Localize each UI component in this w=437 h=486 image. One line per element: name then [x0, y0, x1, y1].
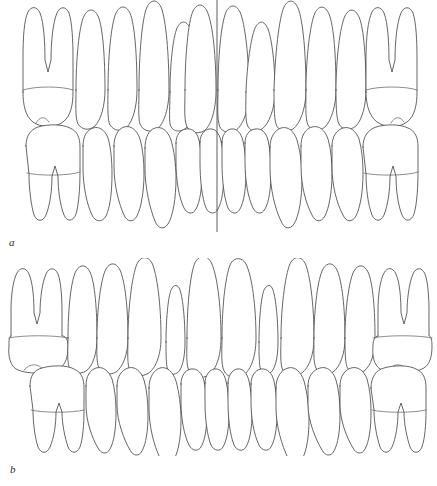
- tooth-lower-right-central-incisor: [200, 129, 224, 213]
- tooth-lower-right-second-premolar: [83, 127, 112, 220]
- tooth-lower-left-first-premolar: [301, 127, 332, 221]
- panel-b-label: b: [10, 464, 16, 475]
- tooth-upper-left-canine: [274, 1, 306, 131]
- tooth-upper-right-peg-lateral-incisor-b: [166, 286, 185, 375]
- tooth-lower-right-first-molar: [26, 125, 80, 220]
- dental-figure: a: [0, 0, 437, 486]
- tooth-upper-right-canine: [139, 1, 169, 131]
- tooth-lower-left-second-premolar: [332, 128, 363, 221]
- tooth-upper-left-central-incisor: [218, 6, 249, 132]
- tooth-upper-right-canine-b: [128, 258, 161, 376]
- panel-a: [0, 0, 437, 250]
- tooth-upper-right-first-premolar-b: [97, 264, 128, 374]
- tooth-lower-right-first-premolar: [114, 127, 144, 221]
- tooth-lower-left-canine: [270, 128, 302, 228]
- tooth-upper-right-first-premolar: [108, 7, 137, 130]
- tooth-lower-left-second-premolar-b: [340, 368, 371, 453]
- tooth-lower-right-first-premolar-b: [117, 368, 148, 455]
- tooth-upper-left-first-molar: [366, 8, 417, 127]
- tooth-upper-left-first-premolar-b: [314, 264, 345, 374]
- tooth-upper-left-canine-b: [281, 258, 314, 376]
- panel-a-label: a: [9, 237, 15, 248]
- tooth-lower-right-second-premolar-b: [86, 368, 116, 453]
- tooth-upper-right-first-molar-b: [9, 269, 68, 373]
- panel-a-upper-arch: [23, 1, 417, 133]
- tooth-lower-left-canine-b: [276, 368, 309, 456]
- tooth-upper-right-second-premolar: [76, 10, 105, 129]
- tooth-lower-right-first-molar-b: [30, 366, 84, 452]
- tooth-lower-left-lateral-incisor: [245, 129, 271, 213]
- tooth-lower-left-first-molar: [363, 125, 418, 220]
- tooth-upper-left-central-incisor-b: [222, 259, 256, 378]
- tooth-upper-left-lateral-incisor: [246, 22, 275, 131]
- tooth-upper-right-second-premolar-b: [68, 266, 97, 373]
- tooth-lower-right-lateral-incisor: [176, 129, 202, 213]
- tooth-lower-right-lateral-incisor-b: [181, 369, 207, 450]
- tooth-lower-left-first-molar-b: [371, 366, 426, 452]
- tooth-upper-left-peg-lateral-incisor-b: [259, 286, 278, 375]
- tooth-lower-left-lateral-incisor-b: [251, 369, 277, 450]
- panel-a-drawing: [0, 0, 437, 232]
- tooth-upper-left-second-premolar: [336, 10, 366, 129]
- panel-a-lower-arch: [26, 125, 418, 228]
- panel-b-lower-arch: [30, 366, 426, 456]
- tooth-lower-left-central-incisor-b: [228, 369, 252, 450]
- panel-b-drawing: [0, 258, 437, 456]
- tooth-lower-right-central-incisor-b: [205, 369, 229, 450]
- tooth-upper-left-first-premolar: [306, 7, 336, 130]
- panel-b-upper-arch: [9, 258, 432, 378]
- tooth-upper-right-central-incisor-b: [187, 258, 221, 378]
- tooth-upper-right-central-incisor: [185, 5, 216, 133]
- tooth-upper-left-first-molar-b: [373, 269, 432, 373]
- tooth-lower-right-canine: [145, 128, 176, 228]
- tooth-upper-right-first-molar: [23, 8, 73, 127]
- panel-b: [0, 258, 437, 486]
- tooth-lower-left-central-incisor: [222, 129, 246, 213]
- tooth-upper-left-second-premolar-b: [345, 266, 375, 373]
- tooth-lower-right-canine-b: [149, 368, 181, 456]
- tooth-lower-left-first-premolar-b: [308, 368, 340, 455]
